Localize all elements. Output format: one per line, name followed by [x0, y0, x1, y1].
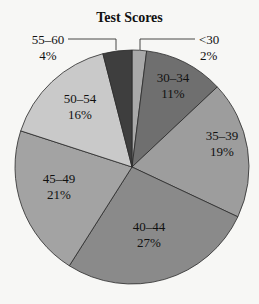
slice-percent-label: 4% [39, 48, 57, 63]
slice-label: 45–4921% [43, 171, 76, 202]
slice-percent-label: 11% [161, 86, 185, 101]
slice-category-label: 30–34 [157, 70, 190, 85]
slice-category-label: 50–54 [64, 91, 97, 106]
slice-category-label: <30 [199, 32, 219, 47]
slice-percent-label: 19% [210, 144, 234, 159]
pie-chart: <302%30–3411%35–3919%40–4427%45–4921%50–… [0, 0, 259, 304]
slice-label: 35–3919% [206, 128, 239, 159]
slice-label: <302% [199, 32, 219, 63]
slice-percent-label: 2% [200, 48, 218, 63]
slice-category-label: 40–44 [133, 219, 166, 234]
slice-category-label: 35–39 [206, 128, 239, 143]
slice-percent-label: 21% [47, 187, 71, 202]
callout-line [68, 39, 116, 50]
callout-line [140, 39, 195, 50]
slice-category-label: 45–49 [43, 171, 76, 186]
slice-category-label: 55–60 [32, 32, 65, 47]
slice-percent-label: 16% [68, 107, 92, 122]
slice-percent-label: 27% [137, 235, 161, 250]
slice-label: 55–604% [32, 32, 65, 63]
slice-label: 40–4427% [133, 219, 166, 250]
slice-label: 50–5416% [64, 91, 97, 122]
